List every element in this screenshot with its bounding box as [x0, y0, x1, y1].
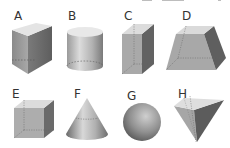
frustum-shape: [164, 24, 228, 74]
shape-label-b: B: [68, 10, 76, 22]
rectangular-prism-shape: [120, 24, 160, 76]
sphere-shape: [122, 102, 164, 144]
shape-label-a: A: [14, 10, 22, 22]
cylinder-shape: [65, 26, 105, 76]
cropped-text-fragment: [142, 0, 152, 1]
shape-label-g: G: [127, 90, 136, 102]
cube-shape: [12, 98, 62, 144]
cropped-text-fragment: [162, 0, 184, 1]
triangular-prism-shape: [10, 26, 60, 76]
cone-shape: [64, 96, 110, 144]
inverted-pyramid-shape: [172, 96, 228, 146]
shape-label-c: C: [124, 10, 132, 22]
cropped-text-fragment: [218, 0, 221, 1]
shape-label-d: D: [182, 10, 191, 22]
